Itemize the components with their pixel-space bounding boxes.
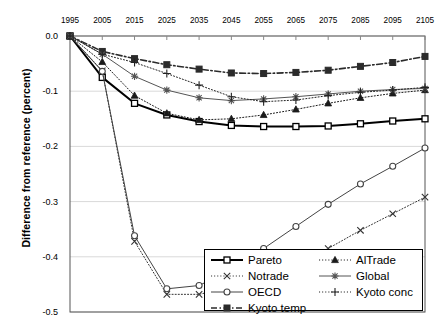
marker-open-circle bbox=[132, 233, 138, 239]
marker-plus bbox=[331, 288, 339, 296]
legend-key-oecd bbox=[209, 285, 245, 299]
legend-key-kyoto-conc bbox=[317, 285, 353, 299]
marker-open-square bbox=[224, 257, 230, 263]
series-line bbox=[70, 36, 425, 120]
marker-plus bbox=[421, 83, 429, 91]
marker-star bbox=[131, 73, 138, 80]
marker-open-square bbox=[261, 124, 267, 130]
chart-legend: ParetoNotradeOECDKyoto temp AlTradeGloba… bbox=[204, 249, 423, 311]
series-kyoto-conc bbox=[66, 32, 429, 106]
legend-key-kyoto-temp bbox=[209, 301, 245, 315]
marker-filled-square bbox=[261, 71, 267, 77]
marker-star bbox=[331, 272, 338, 279]
marker-filled-square bbox=[164, 62, 170, 68]
marker-open-square bbox=[132, 100, 138, 106]
marker-cross-x bbox=[224, 273, 230, 279]
marker-open-circle bbox=[164, 286, 170, 292]
marker-open-circle bbox=[422, 145, 428, 151]
series-line bbox=[70, 36, 425, 127]
marker-open-square bbox=[228, 122, 234, 128]
marker-open-circle bbox=[99, 68, 105, 74]
marker-filled-square bbox=[224, 305, 230, 311]
legend-entry-kyoto-temp[interactable]: Kyoto temp bbox=[209, 300, 317, 316]
series-altrade bbox=[67, 32, 429, 122]
legend-label: OECD bbox=[248, 285, 281, 299]
legend-label: Kyoto conc bbox=[356, 285, 413, 299]
marker-plus bbox=[356, 88, 364, 96]
marker-cross-x bbox=[357, 227, 363, 233]
marker-filled-square bbox=[325, 67, 331, 73]
legend-entry-notrade[interactable]: Notrade bbox=[209, 268, 317, 284]
marker-plus bbox=[195, 81, 203, 89]
legend-label: Notrade bbox=[248, 269, 289, 283]
legend-entry-pareto[interactable]: Pareto bbox=[209, 252, 317, 268]
marker-filled-triangle bbox=[260, 111, 267, 117]
series-line bbox=[70, 36, 425, 74]
legend-entry-global[interactable]: Global bbox=[317, 268, 423, 284]
marker-filled-square bbox=[228, 70, 234, 76]
legend-label: Kyoto temp bbox=[248, 301, 306, 315]
marker-open-square bbox=[422, 116, 428, 122]
marker-plus bbox=[227, 93, 235, 101]
marker-open-circle bbox=[293, 223, 299, 229]
marker-open-square bbox=[390, 118, 396, 124]
marker-cross-x bbox=[390, 211, 396, 217]
marker-open-circle bbox=[325, 201, 331, 207]
marker-open-circle bbox=[357, 181, 363, 187]
marker-open-square bbox=[357, 121, 363, 127]
marker-filled-square bbox=[422, 53, 428, 59]
marker-filled-triangle bbox=[99, 58, 106, 64]
legend-key-global bbox=[317, 269, 353, 283]
marker-star bbox=[195, 94, 202, 101]
marker-filled-square bbox=[357, 63, 363, 69]
legend-entry-altrade[interactable]: AlTrade bbox=[317, 252, 423, 268]
marker-open-square bbox=[325, 123, 331, 129]
marker-plus bbox=[324, 92, 332, 100]
legend-column-left: ParetoNotradeOECDKyoto temp bbox=[209, 252, 317, 316]
legend-column-right: AlTradeGlobalKyoto conc bbox=[317, 252, 423, 300]
marker-filled-triangle bbox=[332, 256, 339, 262]
marker-open-circle bbox=[196, 283, 202, 289]
marker-filled-square bbox=[293, 69, 299, 75]
marker-filled-square bbox=[390, 59, 396, 65]
marker-open-circle bbox=[390, 163, 396, 169]
legend-label: Global bbox=[356, 269, 389, 283]
chart-figure: Difference from reference (percent) 0.0-… bbox=[0, 0, 437, 334]
marker-open-square bbox=[293, 124, 299, 130]
legend-entry-oecd[interactable]: OECD bbox=[209, 284, 317, 300]
marker-filled-triangle bbox=[325, 100, 332, 106]
marker-filled-square bbox=[196, 66, 202, 72]
legend-key-pareto bbox=[209, 253, 245, 267]
marker-plus bbox=[163, 70, 171, 78]
legend-label: AlTrade bbox=[356, 253, 396, 267]
legend-entry-kyoto-conc[interactable]: Kyoto conc bbox=[317, 284, 423, 300]
legend-label: Pareto bbox=[248, 253, 282, 267]
marker-star bbox=[163, 86, 170, 93]
series-kyoto-temp bbox=[67, 33, 428, 77]
legend-key-notrade bbox=[209, 269, 245, 283]
marker-open-circle bbox=[224, 289, 230, 295]
legend-key-altrade bbox=[317, 253, 353, 267]
